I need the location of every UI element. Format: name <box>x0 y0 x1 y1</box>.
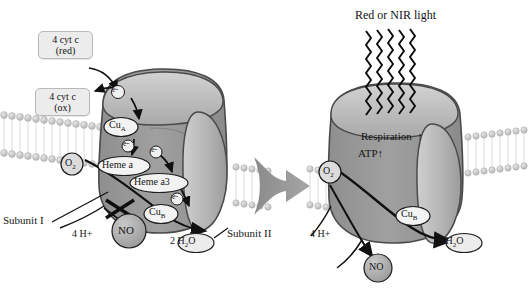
h2o-right-label: 2 H2O <box>438 236 463 250</box>
h2o-label: 2 H2O <box>170 236 195 250</box>
heme-a3-label: Heme a3 <box>134 177 170 188</box>
protons-label: 4 H+ <box>72 229 92 240</box>
right-panel-title: Red or NIR light <box>355 8 436 23</box>
cu-b-right-label: CuB <box>401 209 417 223</box>
callout-cyt-c-red-line1: 4 cyt c <box>39 34 92 45</box>
subunit-2-label: Subunit II <box>227 228 271 240</box>
cu-a-label: CuA <box>109 120 126 134</box>
protons-right-label: 4 H+ <box>310 229 330 240</box>
callout-cyt-c-red-line2: (red) <box>39 45 92 56</box>
e-cua-label: e- <box>123 140 129 149</box>
e-hemea-label: e- <box>151 146 157 155</box>
heme-a-label: Heme a <box>102 160 133 171</box>
e-entry-label: e- <box>112 86 118 95</box>
no-right-label: NO <box>369 262 383 273</box>
o2-label: O2 <box>65 158 76 172</box>
callout-cyt-c-red: 4 cyt c (red) <box>38 31 93 59</box>
callout-cyt-c-ox: 4 cyt c (ox) <box>35 88 90 116</box>
o2-right-label: O2 <box>323 166 334 180</box>
cu-b-label: CuB <box>149 207 165 221</box>
no-label: NO <box>118 225 134 237</box>
atp-effect-label: ATP↑ <box>358 148 383 160</box>
callout-cyt-c-ox-line1: 4 cyt c <box>36 91 89 102</box>
transition-arrow-icon <box>254 157 310 215</box>
membrane-left <box>1 112 112 170</box>
callout-cyt-c-ox-line2: (ox) <box>36 102 89 113</box>
figure-canvas: 4 cyt c (red) 4 cyt c (ox) CuA Heme a He… <box>0 0 528 295</box>
e-hemea3-label: e- <box>172 193 178 202</box>
subunit-1-label: Subunit I <box>3 215 44 227</box>
respiration-effect-label: Respiration ↑ <box>361 131 423 143</box>
